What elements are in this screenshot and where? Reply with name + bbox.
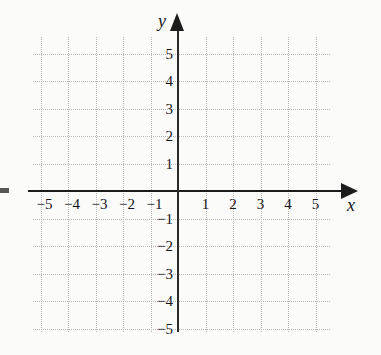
y-tick-label: 3	[0, 101, 173, 116]
y-axis-line	[177, 22, 179, 332]
x-tick-label: −3	[92, 197, 108, 212]
y-tick-label: 5	[0, 46, 173, 61]
x-tick-label: 1	[202, 197, 210, 212]
x-axis-line	[28, 190, 348, 192]
y-tick-label: 4	[0, 74, 173, 89]
y-axis-label: y	[158, 12, 166, 30]
x-tick-label: 2	[229, 197, 237, 212]
x-tick-label: −4	[64, 197, 80, 212]
y-tick-label: 1	[0, 156, 173, 171]
y-tick-label: −1	[0, 211, 173, 226]
x-tick-label: −2	[119, 197, 135, 212]
y-tick-label: 2	[0, 129, 173, 144]
x-tick-label: 3	[257, 197, 265, 212]
y-axis-arrow-icon	[170, 13, 184, 31]
y-tick-label: −2	[0, 239, 173, 254]
y-tick-label: −3	[0, 266, 173, 281]
x-axis-label: x	[347, 196, 355, 214]
x-tick-label: 4	[284, 197, 292, 212]
x-tick-label: 5	[312, 197, 320, 212]
y-tick-label: −4	[0, 294, 173, 309]
y-tick-label: −5	[0, 321, 173, 336]
x-tick-label: −5	[37, 197, 53, 212]
scan-artifact	[0, 188, 9, 193]
coordinate-plane-figure: −5−4−3−2−11234554321−1−2−3−4−5 x y	[0, 0, 381, 355]
